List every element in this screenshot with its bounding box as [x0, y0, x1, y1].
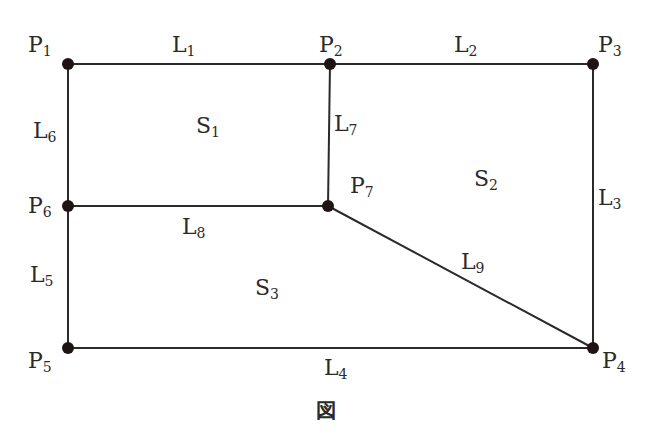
line-label-l9: L9 [461, 249, 485, 276]
point-label-p4: P4 [602, 348, 626, 375]
line-label-l4: L4 [324, 355, 348, 382]
node-p2 [324, 58, 336, 70]
region-label-s1: S1 [196, 113, 220, 140]
region-label-s2: S2 [474, 166, 498, 193]
region-label-s3: S3 [255, 275, 279, 302]
line-label-l2: L2 [454, 32, 478, 59]
node-p7 [322, 200, 334, 212]
node-p3 [587, 58, 599, 70]
diagram: P1P2P3P4P5P6P7L1L2L3L4L5L6L7L8L9S1S2S3 図 [0, 0, 652, 442]
point-label-p3: P3 [598, 32, 622, 59]
point-label-p5: P5 [28, 348, 52, 375]
line-label-l6: L6 [33, 118, 57, 145]
line-label-l3: L3 [598, 185, 622, 212]
node-p5 [62, 342, 74, 354]
line-label-l7: L7 [334, 111, 358, 138]
point-label-p7: P7 [350, 173, 374, 200]
point-label-p1: P1 [28, 32, 52, 59]
point-label-p6: P6 [28, 193, 52, 220]
edge-l7 [328, 64, 330, 206]
line-label-l5: L5 [30, 262, 54, 289]
line-label-l1: L1 [172, 32, 196, 59]
node-p1 [62, 58, 74, 70]
line-label-l8: L8 [182, 214, 206, 241]
node-p4 [587, 342, 599, 354]
point-label-p2: P2 [319, 32, 343, 59]
edge-l9 [328, 206, 593, 348]
node-p6 [62, 200, 74, 212]
figure-caption: 図 [316, 399, 336, 423]
